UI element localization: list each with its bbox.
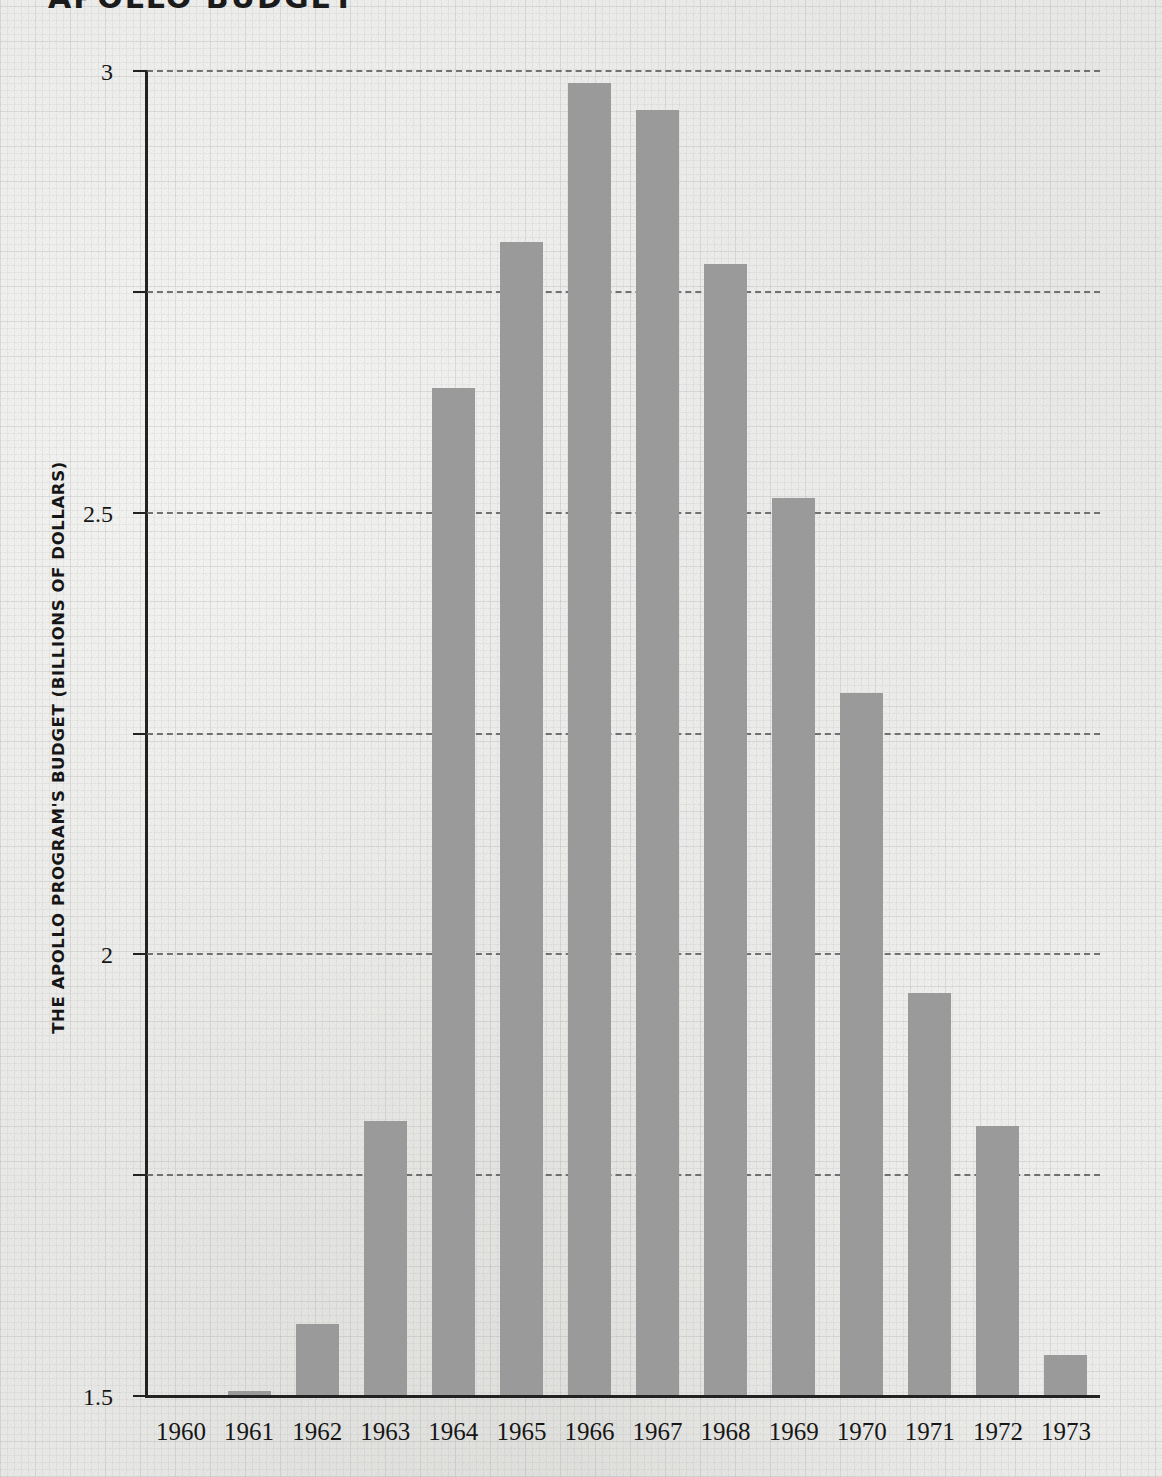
bar-1965 xyxy=(500,242,543,1395)
x-tick-label-1961: 1961 xyxy=(224,1418,274,1446)
y-tick-mark-2: 2 xyxy=(133,512,147,514)
x-tick-label-1964: 1964 xyxy=(428,1418,478,1446)
bar-1966 xyxy=(568,83,611,1395)
y-tick-label-2: 2 xyxy=(101,942,113,969)
x-tick-label-1962: 1962 xyxy=(292,1418,342,1446)
x-tick-label-1965: 1965 xyxy=(496,1418,546,1446)
chart-title: APOLLO BUDGET xyxy=(48,0,356,15)
bar-1961 xyxy=(228,1391,271,1395)
y-tick-mark-1.5: 1.5 xyxy=(133,733,147,735)
x-tick-label-1963: 1963 xyxy=(360,1418,410,1446)
y-tick-label-2.5: 2.5 xyxy=(83,500,113,527)
x-tick-label-1966: 1966 xyxy=(564,1418,614,1446)
x-tick-label-1972: 1972 xyxy=(973,1418,1023,1446)
y-tick-mark-3: 3 xyxy=(133,70,147,72)
y-tick-label-1.5: 1.5 xyxy=(83,1384,113,1411)
bar-1972 xyxy=(976,1126,1019,1395)
bar-1973 xyxy=(1044,1355,1087,1395)
y-tick-mark-0.5: 0.5 xyxy=(133,1174,147,1176)
bar-1968 xyxy=(704,264,747,1395)
x-tick-label-1973: 1973 xyxy=(1041,1418,1091,1446)
x-tick-label-1967: 1967 xyxy=(633,1418,683,1446)
y-tick-label-3: 3 xyxy=(101,59,113,86)
x-tick-label-1971: 1971 xyxy=(905,1418,955,1446)
y-tick-mark-0: 0 xyxy=(133,1395,147,1397)
bars-group xyxy=(147,70,1100,1395)
x-tick-label-1968: 1968 xyxy=(701,1418,751,1446)
y-axis-label: THE APOLLO PROGRAM'S BUDGET (BILLIONS OF… xyxy=(49,258,68,1238)
y-tick-mark-2.5: 2.5 xyxy=(133,291,147,293)
bar-1970 xyxy=(840,693,883,1395)
x-tick-label-1969: 1969 xyxy=(769,1418,819,1446)
bar-1962 xyxy=(296,1324,339,1395)
x-tick-label-1970: 1970 xyxy=(837,1418,887,1446)
bar-1967 xyxy=(636,110,679,1395)
bar-1971 xyxy=(908,993,951,1395)
bar-1963 xyxy=(364,1121,407,1395)
x-axis-line xyxy=(145,1395,1100,1398)
y-tick-mark-1: 1 xyxy=(133,953,147,955)
bar-1964 xyxy=(432,388,475,1395)
x-tick-label-1960: 1960 xyxy=(156,1418,206,1446)
bar-1969 xyxy=(772,498,815,1395)
chart-plot-area: 00.511.522.53 19601961196219631964196519… xyxy=(147,70,1100,1395)
